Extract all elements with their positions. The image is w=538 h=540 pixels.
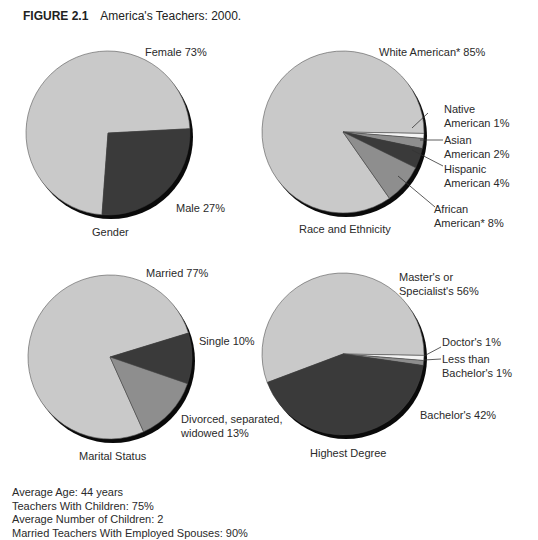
label-hispanic-american: Hispanic American 4%: [444, 162, 509, 190]
caption-gender: Gender: [92, 226, 129, 238]
label-white-american: White American* 85%: [379, 45, 485, 59]
summary-stats: Average Age: 44 years Teachers With Chil…: [12, 486, 248, 540]
label-less-than-bachelors: Less than Bachelor's 1%: [442, 352, 512, 380]
stat-average-children: Average Number of Children: 2: [12, 513, 248, 527]
label-masters: Master's or Specialist's 56%: [399, 270, 479, 298]
label-male: Male 27%: [176, 201, 225, 215]
label-asian-american: Asian American 2%: [444, 133, 509, 161]
pie-marital-status: [28, 275, 195, 443]
label-bachelors: Bachelor's 42%: [420, 408, 496, 422]
caption-marital-status: Marital Status: [79, 450, 146, 462]
stat-average-age: Average Age: 44 years: [12, 486, 248, 500]
caption-race-ethnicity: Race and Ethnicity: [299, 223, 391, 235]
label-african-american: African American* 8%: [434, 202, 504, 230]
label-divorced: Divorced, separated, widowed 13%: [181, 412, 283, 440]
label-female: Female 73%: [145, 45, 207, 59]
label-married: Married 77%: [146, 266, 208, 280]
stat-employed-spouses: Married Teachers With Employed Spouses: …: [12, 527, 248, 540]
label-single: Single 10%: [199, 334, 255, 348]
stat-teachers-with-children: Teachers With Children: 75%: [12, 500, 248, 514]
pie-gender: [26, 51, 193, 219]
pie-race-ethnicity: [262, 51, 427, 217]
label-doctors: Doctor's 1%: [442, 335, 501, 349]
caption-highest-degree: Highest Degree: [310, 447, 386, 459]
label-native-american: Native American 1%: [444, 102, 509, 130]
